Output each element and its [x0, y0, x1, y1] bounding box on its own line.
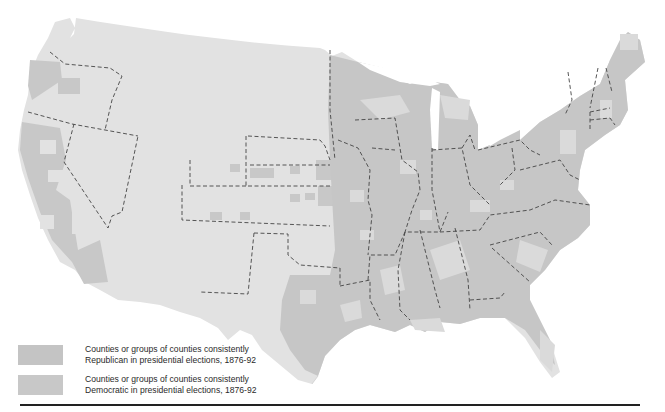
legend-swatch-democratic	[18, 375, 63, 395]
legend-label-republican: Counties or groups of counties consisten…	[85, 344, 325, 366]
legend-swatch-republican	[18, 345, 63, 365]
legend-label-democratic: Counties or groups of counties consisten…	[85, 374, 325, 396]
legend-item-republican: Counties or groups of counties consisten…	[18, 344, 325, 366]
eastern-counties	[280, 32, 645, 376]
legend-item-democratic: Counties or groups of counties consisten…	[18, 374, 325, 396]
bottom-rule	[20, 404, 640, 406]
